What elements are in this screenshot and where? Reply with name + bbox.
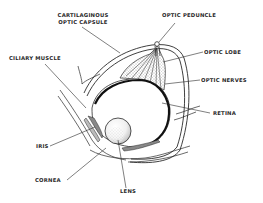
label-optic-lobe: OPTIC LOBE [204, 49, 241, 56]
label-capsule-line1: CARTILAGINOUS [48, 12, 118, 19]
label-retina: RETINA [213, 110, 236, 117]
label-ciliary-muscle: CILIARY MUSCLE [9, 55, 61, 62]
label-iris: IRIS [36, 143, 49, 150]
label-cartilaginous-optic-capsule: CARTILAGINOUS OPTIC CAPSULE [48, 12, 118, 25]
eye-diagram [0, 0, 263, 203]
label-optic-peduncle: OPTIC PEDUNCLE [162, 12, 216, 19]
label-lens: LENS [120, 188, 136, 195]
label-optic-nerves: OPTIC NERVES [201, 77, 247, 84]
label-capsule-line2: OPTIC CAPSULE [48, 19, 118, 26]
eyeball [92, 79, 170, 147]
label-cornea: CORNEA [35, 177, 61, 184]
